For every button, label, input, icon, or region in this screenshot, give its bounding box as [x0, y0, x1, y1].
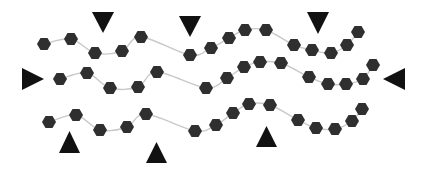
hexagon-node	[328, 123, 342, 135]
hexagon-node	[339, 78, 353, 90]
hexagon-node	[259, 24, 273, 36]
triangle-bottom-3-icon	[256, 126, 277, 147]
hexagon-chains	[37, 24, 380, 137]
triangle-bottom-2-icon	[146, 142, 167, 163]
hexagon-node	[302, 71, 316, 83]
triangle-right-icon	[383, 68, 405, 90]
hexagon-node	[222, 32, 236, 44]
hexagon-node	[356, 73, 370, 85]
hexagon-node	[237, 61, 251, 73]
hexagon-node	[53, 73, 67, 85]
hexagon-node	[80, 67, 94, 79]
hexagon-node	[139, 108, 153, 120]
hexagon-node	[309, 122, 323, 134]
hexagon-node	[134, 31, 148, 43]
hexagon-node	[42, 116, 56, 128]
triangle-top-1-icon	[92, 12, 114, 33]
hexagon-node	[355, 103, 369, 115]
hexagon-node	[37, 38, 51, 50]
hexagon-node	[150, 66, 164, 78]
hexagon-node	[366, 59, 380, 71]
hexagon-node	[64, 33, 78, 45]
hexagon-node	[291, 114, 305, 126]
hexagon-node	[242, 98, 256, 110]
triangle-bottom-1-icon	[59, 131, 80, 153]
hexagon-node	[351, 26, 365, 38]
hexagon-node	[88, 47, 102, 59]
hexagon-node	[263, 99, 277, 111]
hexagon-node	[93, 124, 107, 136]
hexagon-node	[287, 39, 301, 51]
triangle-left-icon	[22, 68, 44, 90]
hexagon-node	[204, 42, 218, 54]
bottom-chain	[42, 98, 369, 137]
hexagon-node	[274, 57, 288, 69]
hexagon-node	[321, 78, 335, 90]
triangle-top-3-icon	[307, 12, 329, 34]
hexagon-node	[69, 109, 83, 121]
hexagon-node	[188, 125, 202, 137]
hexagon-node	[209, 119, 223, 131]
hexagon-node	[199, 82, 213, 94]
hexagon-node	[183, 49, 197, 61]
diagram-canvas	[0, 0, 425, 173]
triangle-top-2-icon	[179, 16, 201, 37]
hexagon-node	[324, 47, 338, 59]
middle-chain	[53, 56, 380, 94]
hexagon-node	[305, 44, 319, 56]
hexagon-node	[103, 82, 117, 94]
hexagon-node	[253, 56, 267, 68]
hexagon-node	[238, 24, 252, 36]
